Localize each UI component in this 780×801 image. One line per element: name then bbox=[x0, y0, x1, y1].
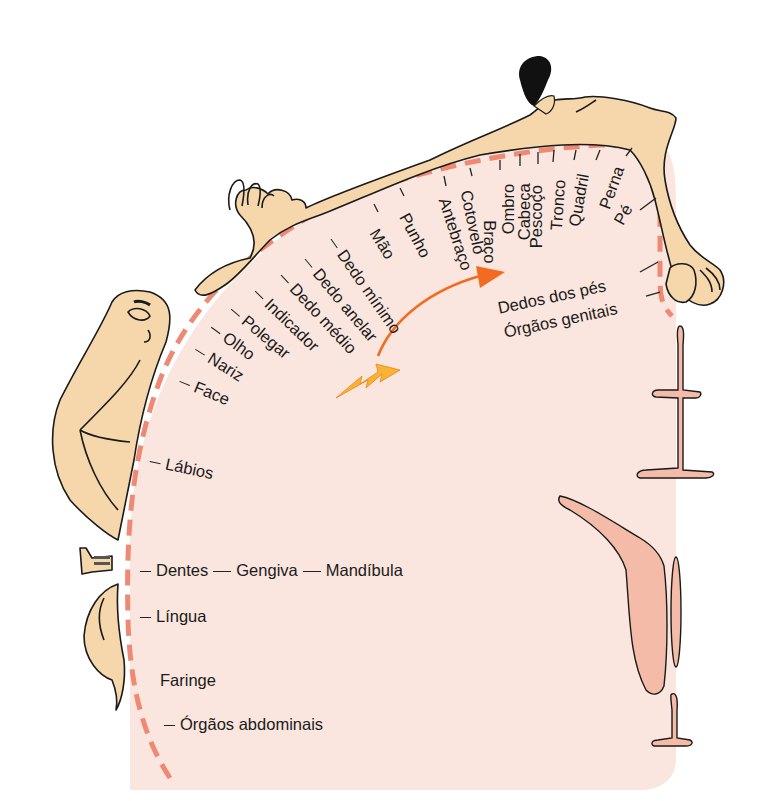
label-pointer-lines bbox=[0, 0, 780, 801]
homunculus-diagram: Pé Perna Quadril Tronco Pescoço Cabeça O… bbox=[0, 0, 780, 801]
